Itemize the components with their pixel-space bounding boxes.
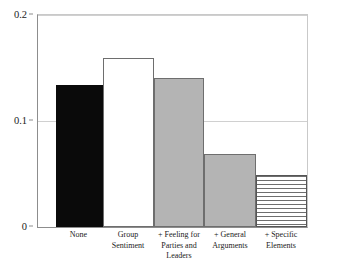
- x-tick-label-specific-elements-line-1: + Specific: [251, 230, 311, 241]
- bar-group-sentiment: [103, 58, 154, 227]
- bar-feeling-for-parties-and-leaders: [154, 78, 204, 227]
- y-axis: 0.2 0.1 0: [0, 14, 33, 226]
- bar-chart-figure: 0.2 0.1 0 None Group Sentiment + Feeling…: [0, 0, 339, 272]
- x-tick-label-specific-elements-line-2: Elements: [251, 241, 311, 252]
- y-tick-mark-0: [29, 226, 33, 227]
- y-tick-label-0.2: 0.2: [14, 9, 27, 20]
- y-tick-mark-0.2: [29, 14, 33, 15]
- x-tick-label-feeling-line-3: Leaders: [149, 251, 209, 262]
- bar-specific-elements: [256, 175, 307, 227]
- plot-area: [37, 14, 308, 228]
- bar-none: [56, 85, 103, 227]
- y-tick-label-0.1: 0.1: [14, 115, 27, 126]
- y-tick-label-0: 0: [22, 221, 27, 232]
- gridline-0.2: [38, 15, 307, 16]
- x-tick-label-specific-elements: + Specific Elements: [251, 230, 311, 251]
- x-axis-labels: None Group Sentiment + Feeling for Parti…: [37, 230, 307, 272]
- y-tick-mark-0.1: [29, 120, 33, 121]
- bar-general-arguments: [204, 154, 256, 227]
